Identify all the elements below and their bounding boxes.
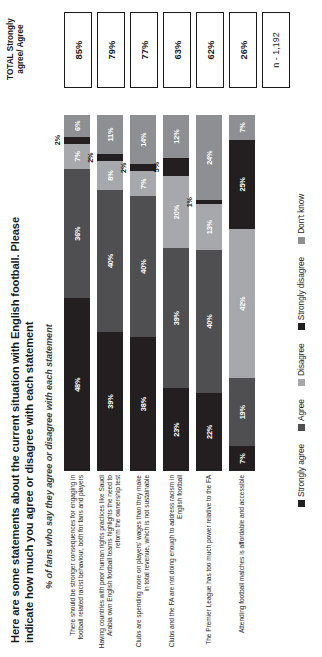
total-column-header: TOTAL Strongly agree/ Agree xyxy=(6,12,25,86)
chart-poster: Here are some statements about the curre… xyxy=(0,0,322,657)
total-agree-value: 63% xyxy=(163,12,191,88)
segment-value-label: 39% xyxy=(172,311,181,325)
statement-label: There should be stronger consequences fo… xyxy=(62,475,92,651)
bar-segment-strongly_disagree: 5% xyxy=(163,158,189,176)
legend-item[interactable]: Agree xyxy=(296,399,306,431)
bar-segment-dont_know: 6% xyxy=(64,115,90,137)
segment-value-label: 2% xyxy=(86,153,95,163)
legend-label: Strongly agree xyxy=(296,444,306,497)
chart-row: Clubs are spending more on players' wage… xyxy=(128,0,158,657)
statement-label: Having countries with poor human rights … xyxy=(95,475,125,651)
legend-label: Disagree xyxy=(296,343,306,376)
bar-segment-dont_know: 7% xyxy=(229,115,255,140)
segment-value-label: 24% xyxy=(205,151,214,165)
bar-segment-dont_know: 12% xyxy=(163,115,189,158)
segment-value-label: 25% xyxy=(238,177,247,191)
chart-row: Attending football matches is affordable… xyxy=(227,0,257,657)
statement-label: Clubs and the FA are not doing enough to… xyxy=(161,475,191,651)
statement-label: Clubs are spending more on players' wage… xyxy=(128,475,158,651)
segment-value-label: 5% xyxy=(152,162,161,172)
segment-value-label: 39% xyxy=(106,394,115,408)
bar-segment-disagree: 13% xyxy=(196,204,222,250)
statement-label: The Premier League has too much power re… xyxy=(194,475,224,651)
segment-value-label: 11% xyxy=(106,128,115,142)
chart-row: There should be stronger consequences fo… xyxy=(62,0,92,657)
segment-value-label: 23% xyxy=(172,423,181,437)
stacked-bar: 48%36%7%2%6% xyxy=(64,115,90,471)
segment-value-label: 48% xyxy=(73,378,82,392)
bar-segment-strongly_disagree: 1% xyxy=(196,200,222,204)
total-agree-value: 85% xyxy=(64,12,92,88)
bar-segment-dont_know: 14% xyxy=(130,115,156,164)
segment-value-label: 12% xyxy=(172,129,181,143)
legend-item[interactable]: Disagree xyxy=(296,343,306,386)
segment-value-label: 14% xyxy=(139,133,148,147)
bar-segment-agree: 40% xyxy=(97,190,123,332)
legend-swatch-icon xyxy=(298,237,305,244)
bar-segment-strongly_agree: 48% xyxy=(64,298,90,471)
stacked-bar: 7%19%42%25%7% xyxy=(229,115,255,471)
segment-value-label: 40% xyxy=(106,254,115,268)
segment-value-label: 1% xyxy=(185,197,194,207)
legend-swatch-icon xyxy=(298,379,305,386)
legend-swatch-icon xyxy=(298,500,305,507)
statement-label: Attending football matches is affordable… xyxy=(227,475,257,651)
legend-item[interactable]: Don't know xyxy=(296,194,306,244)
bar-segment-strongly_disagree: 2% xyxy=(64,137,90,144)
legend-item[interactable]: Strongly disagree xyxy=(296,257,306,330)
bar-segment-strongly_disagree: 2% xyxy=(97,154,123,161)
bar-segment-disagree: 7% xyxy=(130,171,156,196)
legend-swatch-icon xyxy=(298,323,305,330)
bar-segment-dont_know: 11% xyxy=(97,115,123,154)
stacked-bar-plot: There should be stronger consequences fo… xyxy=(62,0,288,657)
legend-item[interactable]: Strongly agree xyxy=(296,444,306,507)
bar-segment-agree: 40% xyxy=(196,250,222,392)
legend-label: Strongly disagree xyxy=(296,257,306,320)
segment-value-label: 40% xyxy=(139,259,148,273)
chart-row: The Premier League has too much power re… xyxy=(194,0,224,657)
segment-value-label: 42% xyxy=(238,297,247,311)
segment-value-label: 19% xyxy=(238,405,247,419)
bar-segment-agree: 36% xyxy=(64,169,90,298)
segment-value-label: 7% xyxy=(73,151,82,161)
segment-value-label: 2% xyxy=(119,163,128,173)
bar-segment-agree: 19% xyxy=(229,378,255,446)
bar-segment-strongly_agree: 23% xyxy=(163,388,189,471)
segment-value-label: 8% xyxy=(106,170,115,180)
bar-segment-strongly_agree: 7% xyxy=(229,446,255,471)
bar-segment-agree: 40% xyxy=(130,196,156,337)
bar-segment-agree: 39% xyxy=(163,248,189,388)
segment-value-label: 20% xyxy=(172,205,181,219)
chart-row: Having countries with poor human rights … xyxy=(95,0,125,657)
total-agree-value: 26% xyxy=(229,12,257,88)
bar-segment-strongly_disagree: 25% xyxy=(229,140,255,229)
total-agree-value: 79% xyxy=(97,12,125,88)
segment-value-label: 40% xyxy=(205,314,214,328)
chart-row: Clubs and the FA are not doing enough to… xyxy=(161,0,191,657)
stacked-bar: 22%40%13%1%24% xyxy=(196,115,222,471)
total-agree-value: 77% xyxy=(130,12,158,88)
segment-value-label: 7% xyxy=(139,179,148,189)
legend-swatch-icon xyxy=(298,424,305,431)
legend-label: Agree xyxy=(296,399,306,421)
bar-segment-strongly_agree: 22% xyxy=(196,393,222,471)
legend-label: Don't know xyxy=(296,194,306,234)
chart-subtitle: % of fans who say they agree or disagree… xyxy=(44,189,54,589)
chart-legend: Strongly agreeAgreeDisagreeStrongly disa… xyxy=(296,37,306,507)
segment-value-label: 22% xyxy=(205,425,214,439)
page-title: Here are some statements about the curre… xyxy=(8,213,37,643)
segment-value-label: 7% xyxy=(238,122,247,132)
segment-value-label: 6% xyxy=(73,121,82,131)
stacked-bar: 23%39%20%5%12% xyxy=(163,115,189,471)
bar-segment-strongly_agree: 39% xyxy=(97,332,123,471)
bar-segment-dont_know: 24% xyxy=(196,115,222,200)
segment-value-label: 38% xyxy=(139,397,148,411)
bar-segment-disagree: 20% xyxy=(163,176,189,248)
segment-value-label: 7% xyxy=(238,453,247,463)
bar-segment-disagree: 42% xyxy=(229,229,255,379)
bar-segment-strongly_agree: 38% xyxy=(130,337,156,471)
segment-value-label: 13% xyxy=(205,220,214,234)
segment-value-label: 2% xyxy=(53,135,62,145)
segment-value-label: 36% xyxy=(73,227,82,241)
sample-size-box: n - 1,192 xyxy=(262,12,290,88)
